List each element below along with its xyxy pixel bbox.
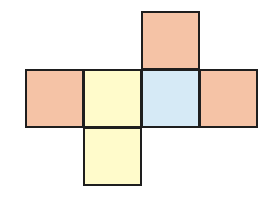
face-bottom: [83, 127, 142, 186]
face-top: [141, 11, 200, 70]
cube-net-diagram: [0, 0, 278, 203]
face-right: [199, 69, 258, 128]
face-center-left: [83, 69, 142, 128]
face-left: [25, 69, 84, 128]
face-center-right: [141, 69, 200, 128]
